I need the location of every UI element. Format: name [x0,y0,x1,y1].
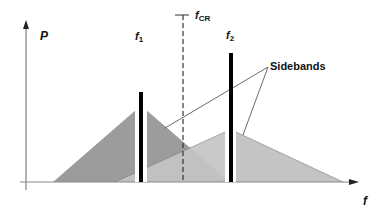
y-axis-arrow-icon [23,20,29,29]
y-axis-label: P [40,29,48,43]
f2-label-sub: 2 [230,34,234,43]
f1-carrier-bar [139,92,143,182]
x-axis-label: f [363,194,367,208]
sideband-diagram [0,0,376,214]
f1-label: f1 [135,30,143,44]
fcr-label: fCR [195,9,210,23]
f2-label: f2 [226,29,234,43]
sideband-leader-2 [243,67,268,135]
f1-sideband-left [53,109,137,182]
sidebands-label: Sidebands [270,60,326,72]
x-axis-arrow-icon [349,179,359,185]
sideband-leader-1 [165,67,268,128]
f2-carrier-bar [229,53,233,182]
fcr-label-sub: CR [199,14,211,23]
f1-label-sub: 1 [139,35,143,44]
